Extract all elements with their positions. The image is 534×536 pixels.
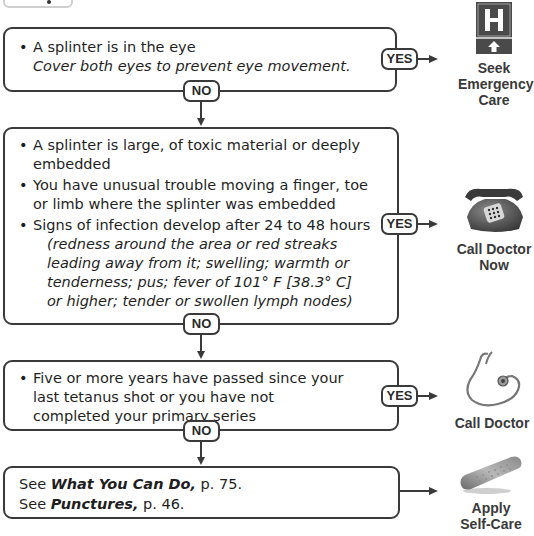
- condition-item: Signs of infection develop after 24 to 4…: [15, 216, 387, 311]
- yes-badge-3[interactable]: YES: [381, 385, 418, 407]
- bandage-icon: [457, 455, 525, 495]
- condition-note: (redness around the area or red streaks …: [33, 235, 387, 311]
- outcome-line: Self-Care: [455, 516, 527, 532]
- arrow-right-icon: [429, 392, 438, 400]
- outcome-line: Call Doctor: [454, 241, 534, 257]
- outcome-line: Call Doctor: [452, 415, 532, 431]
- outcome-line: Emergency: [458, 76, 530, 92]
- condition-text: A splinter is large, of toxic material o…: [33, 137, 360, 172]
- section-tab: [3, 0, 73, 8]
- question-box-large-splinter: A splinter is large, of toxic material o…: [3, 127, 399, 325]
- reference-title[interactable]: What You Can Do,: [51, 476, 196, 492]
- outcome-line: Seek: [458, 60, 530, 76]
- condition-item: A splinter is large, of toxic material o…: [15, 136, 387, 174]
- no-badge-1[interactable]: NO: [183, 80, 220, 102]
- telephone-icon: [461, 183, 527, 233]
- outcome-label-self-care: Apply Self-Care: [455, 500, 527, 532]
- no-connector-1: [200, 102, 202, 119]
- see-prefix: See: [19, 496, 51, 512]
- page-ref: p. 46.: [138, 496, 184, 512]
- self-care-connector: [400, 490, 430, 492]
- condition-text: You have unusual trouble moving a finger…: [33, 177, 368, 212]
- condition-item: A splinter is in the eye Cover both eyes…: [15, 38, 385, 76]
- reference-what-you-can-do[interactable]: See What You Can Do, p. 75.: [19, 474, 388, 494]
- hospital-sign-icon: [476, 2, 512, 54]
- no-badge-3[interactable]: NO: [183, 420, 220, 442]
- stethoscope-icon: [462, 350, 524, 408]
- reference-punctures[interactable]: See Punctures, p. 46.: [19, 494, 388, 514]
- condition-item: You have unusual trouble moving a finger…: [15, 176, 387, 214]
- outcome-line: Care: [458, 92, 530, 108]
- no-connector-3: [200, 442, 202, 458]
- outcome-label-call-doctor-now: Call Doctor Now: [454, 241, 534, 273]
- yes-badge-1[interactable]: YES: [381, 48, 418, 70]
- arrow-right-icon: [429, 220, 438, 228]
- arrow-down-icon: [197, 351, 205, 359]
- condition-text: A splinter is in the eye: [33, 39, 196, 55]
- outcome-label-call-doctor: Call Doctor: [452, 415, 532, 431]
- no-connector-2: [200, 335, 202, 352]
- self-care-box: See What You Can Do, p. 75. See Puncture…: [3, 466, 400, 519]
- arrow-down-icon: [197, 457, 205, 465]
- condition-text: Signs of infection develop after 24 to 4…: [33, 217, 370, 233]
- page-ref: p. 75.: [196, 476, 242, 492]
- condition-note: Cover both eyes to prevent eye movement.: [33, 57, 385, 76]
- condition-text: Five or more years have passed since you…: [33, 370, 344, 424]
- outcome-line: Apply: [455, 500, 527, 516]
- arrow-right-icon: [429, 487, 438, 495]
- arrow-right-icon: [429, 55, 438, 63]
- outcome-line: Now: [454, 257, 534, 273]
- tab-dot-icon: [47, 0, 51, 4]
- outcome-label-emergency: Seek Emergency Care: [458, 60, 530, 108]
- condition-item: Five or more years have passed since you…: [15, 369, 387, 426]
- no-badge-2[interactable]: NO: [183, 313, 220, 335]
- see-prefix: See: [19, 476, 51, 492]
- reference-title[interactable]: Punctures,: [51, 496, 139, 512]
- arrow-down-icon: [197, 118, 205, 126]
- yes-badge-2[interactable]: YES: [381, 213, 418, 235]
